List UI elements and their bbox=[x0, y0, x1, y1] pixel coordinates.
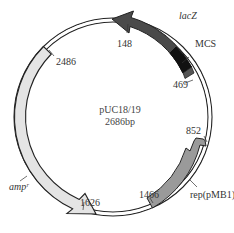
position-148: 148 bbox=[117, 38, 132, 49]
lacz-label: lacZ bbox=[179, 10, 197, 21]
position-469: 469 bbox=[173, 79, 188, 90]
position-1466: 1466 bbox=[139, 189, 159, 200]
plasmid-map: 2486 148 lacZ MCS 469 852 1466 rep(pMB1)… bbox=[0, 0, 234, 233]
plasmid-name: pUC18/19 bbox=[99, 104, 141, 115]
rep-label: rep(pMB1) bbox=[190, 189, 234, 201]
amp-label: ampʳ bbox=[9, 181, 29, 192]
plasmid-size: 2686bp bbox=[105, 116, 135, 127]
position-852: 852 bbox=[186, 125, 201, 136]
position-2486: 2486 bbox=[56, 56, 76, 67]
mcs-label: MCS bbox=[195, 38, 216, 49]
position-1626: 1626 bbox=[80, 197, 100, 208]
